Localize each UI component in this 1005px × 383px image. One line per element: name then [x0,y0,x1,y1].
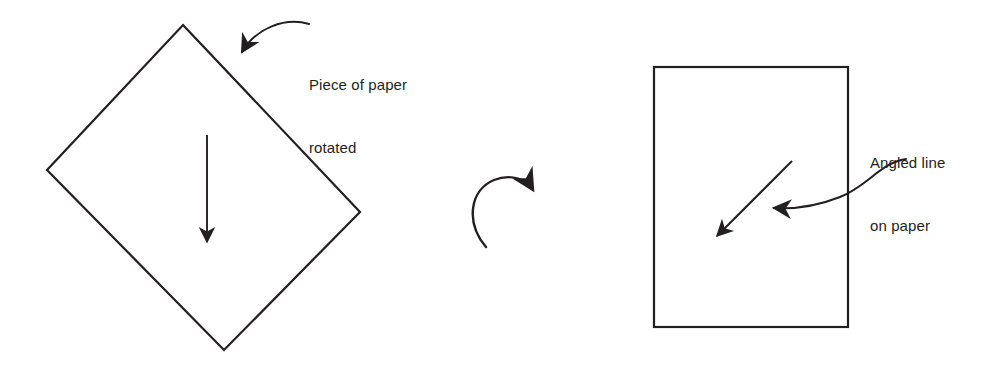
diagram-vector-layer [0,0,1005,383]
label-piece-of-paper: Piece of paper rotated [309,32,407,200]
label-piece-of-paper-line2: rotated [309,137,407,158]
callout-arrow-piece-of-paper [242,22,309,52]
clockwise-rotation-arrow [473,177,533,247]
label-piece-of-paper-line1: Piece of paper [309,74,407,95]
label-angled-line-line2: on paper [870,215,945,236]
diagram-canvas: Piece of paper rotated Angled line on pa… [0,0,1005,383]
label-angled-line-line1: Angled line [870,152,945,173]
upright-paper [654,67,848,327]
label-angled-line: Angled line on paper [870,110,945,278]
